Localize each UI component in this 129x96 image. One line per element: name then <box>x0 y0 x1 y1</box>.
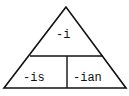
top-section-label: -i <box>56 29 70 41</box>
bottom-right-section-label: -ian <box>73 72 102 84</box>
triangle-outline <box>0 0 129 96</box>
bottom-left-section-label: -is <box>23 72 45 84</box>
suffix-triangle-diagram: -i -is -ian <box>0 0 129 96</box>
